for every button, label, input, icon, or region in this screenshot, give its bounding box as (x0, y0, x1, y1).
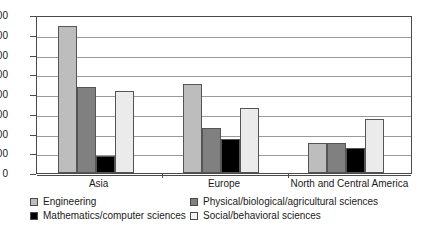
legend-row: EngineeringPhysical/biological/agricultu… (30, 196, 420, 207)
bar (365, 119, 384, 173)
y-axis-tick-mark (30, 154, 36, 155)
y-axis-tick-label: 200 (0, 130, 8, 140)
legend-label: Mathematics/computer sciences (43, 210, 186, 221)
category-label: North and Central America (290, 178, 408, 189)
bar (327, 143, 346, 173)
bar (346, 148, 365, 173)
bar (308, 143, 327, 173)
y-axis-tick-mark (30, 75, 36, 76)
gridline (37, 57, 411, 58)
legend-item[interactable]: Social/behavioral sciences (190, 210, 420, 221)
y-axis-tick-label: 700 (0, 31, 8, 41)
legend-label: Social/behavioral sciences (203, 210, 321, 221)
gridline (37, 37, 411, 38)
legend-swatch-icon (30, 198, 38, 206)
y-axis-tick-mark (30, 95, 36, 96)
bar (115, 91, 134, 173)
bar (221, 139, 240, 173)
legend-swatch-icon (190, 212, 198, 220)
y-axis-tick-mark (30, 135, 36, 136)
y-axis-tick-mark (30, 16, 36, 17)
category-tick (162, 173, 163, 178)
legend-swatch-icon (190, 198, 198, 206)
bar (77, 87, 96, 173)
legend-item[interactable]: Physical/biological/agricultural science… (190, 196, 420, 207)
bar-chart: AsiaEuropeNorth and Central America Engi… (0, 0, 427, 244)
y-axis-tick-label: 300 (0, 110, 8, 120)
legend-item[interactable]: Mathematics/computer sciences (30, 210, 190, 221)
y-axis-tick-label: 600 (0, 51, 8, 61)
bar (240, 108, 259, 173)
y-axis-tick-mark (30, 36, 36, 37)
gridline (37, 76, 411, 77)
bar (96, 156, 115, 173)
y-axis-tick-label: 400 (0, 90, 8, 100)
category-label: Asia (89, 178, 108, 189)
y-axis-tick-mark (30, 56, 36, 57)
legend-swatch-icon (30, 212, 38, 220)
category-label: Europe (208, 178, 240, 189)
gridline (37, 175, 411, 176)
y-axis-tick-label: 800 (0, 11, 8, 21)
y-axis-tick-mark (30, 174, 36, 175)
legend-label: Engineering (43, 196, 96, 207)
plot-area (36, 16, 412, 174)
y-axis-tick-mark (30, 115, 36, 116)
bar (183, 84, 202, 173)
legend-item[interactable]: Engineering (30, 196, 190, 207)
legend-row: Mathematics/computer sciencesSocial/beha… (30, 210, 420, 221)
legend-label: Physical/biological/agricultural science… (203, 196, 378, 207)
chart-legend: EngineeringPhysical/biological/agricultu… (30, 196, 420, 224)
bar (58, 26, 77, 173)
bar (202, 128, 221, 173)
y-axis-tick-label: 0 (0, 169, 8, 179)
category-tick (288, 173, 289, 178)
y-axis-tick-label: 500 (0, 70, 8, 80)
y-axis-tick-label: 100 (0, 149, 8, 159)
